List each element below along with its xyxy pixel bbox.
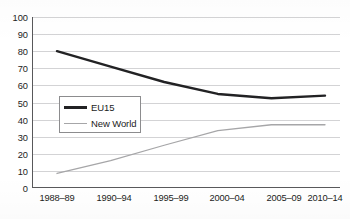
y-tick-label-60: 60 bbox=[0, 81, 28, 91]
legend-label-new-world: New World bbox=[91, 119, 136, 129]
gridline-60 bbox=[33, 85, 340, 86]
y-tick-label-50: 50 bbox=[0, 99, 28, 109]
gridline-90 bbox=[33, 34, 340, 35]
y-tick-label-100: 100 bbox=[0, 13, 28, 23]
x-tick-label-5: 2010–14 bbox=[291, 193, 350, 203]
chart-legend: EU15 New World bbox=[59, 96, 141, 133]
gridline-70 bbox=[33, 68, 340, 69]
legend-swatch-eu15-icon bbox=[64, 106, 87, 108]
legend-item-eu15: EU15 bbox=[60, 99, 140, 116]
y-tick-label-20: 20 bbox=[0, 150, 28, 160]
gridline-10 bbox=[33, 171, 340, 172]
gridline-20 bbox=[33, 154, 340, 155]
gridline-100 bbox=[33, 17, 340, 18]
y-tick-label-40: 40 bbox=[0, 116, 28, 126]
y-tick-label-80: 80 bbox=[0, 47, 28, 57]
y-tick-label-70: 70 bbox=[0, 64, 28, 74]
y-tick-label-30: 30 bbox=[0, 133, 28, 143]
line-chart: 100 90 80 70 60 50 40 30 20 10 0 1988–89… bbox=[0, 0, 350, 219]
legend-label-eu15: EU15 bbox=[91, 103, 114, 113]
legend-item-new-world: New World bbox=[60, 115, 140, 132]
legend-swatch-new-world-icon bbox=[64, 123, 87, 124]
gridline-80 bbox=[33, 51, 340, 52]
y-tick-label-90: 90 bbox=[0, 30, 28, 40]
gridline-30 bbox=[33, 137, 340, 138]
y-tick-label-10: 10 bbox=[0, 167, 28, 177]
